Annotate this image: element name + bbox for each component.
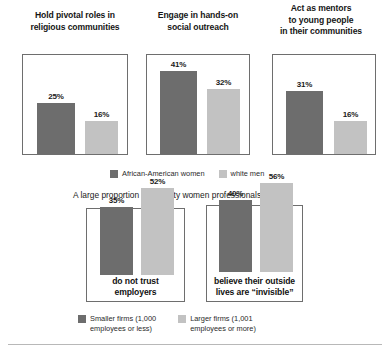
bar-african-american-women xyxy=(37,103,75,154)
panel-title-line: Hold pivotal roles in xyxy=(8,10,142,22)
panel-title-religious-roles: Hold pivotal roles in religious communit… xyxy=(8,10,142,33)
legend-label: Larger firms (1,001 employees or more) xyxy=(190,314,256,333)
chart-panel-religious-roles: 25% 16% xyxy=(22,54,128,155)
bar-african-american-women xyxy=(160,71,197,154)
bar-smaller-firms xyxy=(100,207,133,275)
panel-title-line: social outreach xyxy=(136,22,260,34)
bar-value-label: 41% xyxy=(160,60,197,69)
chart-panel-do-not-trust-employers: 35% 52% do not trust employers xyxy=(86,208,185,302)
legend-item-smaller-firms: Smaller firms (1,000 employees or less) xyxy=(78,314,156,333)
plot-area: 41% 32% xyxy=(147,55,249,154)
legend-bottom: Smaller firms (1,000 employees or less) … xyxy=(78,314,270,333)
bar-value-label: 32% xyxy=(207,78,240,87)
legend-swatch-icon xyxy=(110,170,118,178)
bar-value-label: 16% xyxy=(85,110,118,119)
panel-title-line: Engage in hands-on xyxy=(136,10,260,22)
bar-group-smaller-firms: 40% xyxy=(219,200,252,272)
panel-title-social-outreach: Engage in hands-on social outreach xyxy=(136,10,260,33)
panel-caption-line: employers xyxy=(87,287,184,298)
legend-item-white-men: white men xyxy=(219,169,265,179)
legend-label: Smaller firms (1,000 employees or less) xyxy=(90,314,156,333)
panel-caption-line: do not trust xyxy=(87,276,184,287)
bar-group-larger-firms: 52% xyxy=(141,188,174,275)
bar-larger-firms xyxy=(260,183,293,272)
bottom-divider xyxy=(8,344,382,345)
bar-african-american-women xyxy=(286,91,323,154)
panel-title-mentors: Act as mentors to young people in their … xyxy=(258,3,384,38)
plot-area: 40% 56% believe their outside lives are … xyxy=(207,206,302,301)
panel-caption-line: believe their outside xyxy=(207,276,302,287)
chart-panel-social-outreach: 41% 32% xyxy=(146,54,250,155)
panel-title-line: religious communities xyxy=(8,22,142,34)
bar-white-men xyxy=(334,121,367,154)
legend-swatch-icon xyxy=(219,170,227,178)
bar-group-african-american-women: 25% xyxy=(37,103,75,154)
bar-group-african-american-women: 41% xyxy=(160,71,197,154)
legend-top: African-American women white men xyxy=(110,169,278,179)
bar-larger-firms xyxy=(141,188,174,275)
bar-smaller-firms xyxy=(219,200,252,272)
bar-value-label: 56% xyxy=(260,172,293,181)
plot-area: 31% 16% xyxy=(273,55,375,154)
bar-group-larger-firms: 56% xyxy=(260,183,293,272)
panel-title-line: Act as mentors xyxy=(258,3,384,15)
chart-panel-invisible-lives: 40% 56% believe their outside lives are … xyxy=(206,205,303,302)
bar-group-white-men: 16% xyxy=(334,121,367,154)
bar-value-label: 40% xyxy=(219,189,252,198)
legend-swatch-icon xyxy=(78,315,86,323)
bar-value-label: 31% xyxy=(286,80,323,89)
bar-white-men xyxy=(85,121,118,154)
bar-value-label: 35% xyxy=(100,196,133,205)
panel-caption-invisible-lives: believe their outside lives are “invisib… xyxy=(207,276,302,298)
bar-group-white-men: 16% xyxy=(85,121,118,154)
legend-swatch-icon xyxy=(178,315,186,323)
bar-value-label: 25% xyxy=(37,92,75,101)
chart-panel-mentors: 31% 16% xyxy=(272,54,376,155)
bar-value-label: 16% xyxy=(334,110,367,119)
bar-value-label: 52% xyxy=(141,177,174,186)
panel-title-line: to young people xyxy=(258,15,384,27)
panel-title-line: in their communities xyxy=(258,26,384,38)
plot-area: 35% 52% do not trust employers xyxy=(87,209,184,301)
bar-group-smaller-firms: 35% xyxy=(100,207,133,275)
panel-caption-do-not-trust-employers: do not trust employers xyxy=(87,276,184,298)
bar-group-african-american-women: 31% xyxy=(286,91,323,154)
bar-group-white-men: 32% xyxy=(207,89,240,154)
bar-white-men xyxy=(207,89,240,154)
plot-area: 25% 16% xyxy=(23,55,127,154)
panel-caption-line: lives are “invisible” xyxy=(207,287,302,298)
legend-item-larger-firms: Larger firms (1,001 employees or more) xyxy=(178,314,256,333)
